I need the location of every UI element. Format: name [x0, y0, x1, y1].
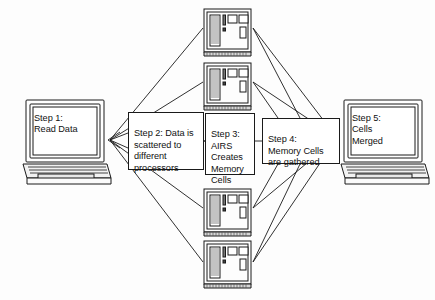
node-step3-box[interactable]: Step 3: AIRS Creates Memory Cells — [205, 113, 255, 175]
node-step1-label: Step 1: Read Data — [34, 113, 96, 136]
edge-gather-tail-3 — [253, 164, 278, 208]
node-step2-label: Step 2: Data is scattered to different p… — [134, 128, 194, 172]
node-step4-box[interactable]: Step 4: Memory Cells are gathered — [262, 118, 340, 164]
tower-computer-icon — [202, 8, 254, 60]
edge-gather-tail-4 — [253, 164, 300, 262]
node-processor-2[interactable] — [202, 62, 254, 114]
laptop-computer-icon — [22, 98, 112, 190]
node-processor-3[interactable] — [202, 188, 254, 240]
node-step4-label: Step 4: Memory Cells are gathered — [268, 134, 324, 167]
tower-computer-icon — [202, 62, 254, 114]
tower-computer-icon — [202, 188, 254, 240]
node-step1-laptop[interactable]: Step 1: Read Data — [22, 98, 112, 190]
node-step2-box[interactable]: Step 2: Data is scattered to different p… — [128, 112, 204, 170]
edge-gather-tail-1 — [253, 28, 300, 118]
process-diagram: Step 1: Read Data Step 2: Data is scatte… — [0, 0, 435, 300]
node-step5-laptop[interactable]: Step 5: Cells Merged — [340, 98, 430, 190]
node-processor-1[interactable] — [202, 8, 254, 60]
node-step5-label: Step 5: Cells Merged — [352, 113, 414, 147]
edge-gather-tail-2 — [253, 82, 278, 118]
node-processor-4[interactable] — [202, 240, 254, 292]
tower-computer-icon — [202, 240, 254, 292]
